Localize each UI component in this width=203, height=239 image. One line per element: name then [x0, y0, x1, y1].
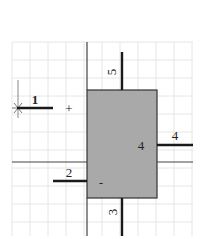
- pin-3-label: 3: [105, 209, 120, 216]
- pin-5-label: 5: [104, 69, 119, 76]
- minus-sign: -: [99, 176, 103, 190]
- pin-1-label: 1: [32, 92, 39, 107]
- pin-4-label: 4: [172, 128, 179, 143]
- diagram-canvas: 1 + 2 - 4 4 5 3: [0, 0, 203, 239]
- plus-sign: +: [65, 101, 72, 116]
- inner-4-label: 4: [138, 138, 145, 153]
- pin-2-label: 2: [66, 165, 73, 180]
- component-block[interactable]: [87, 90, 157, 198]
